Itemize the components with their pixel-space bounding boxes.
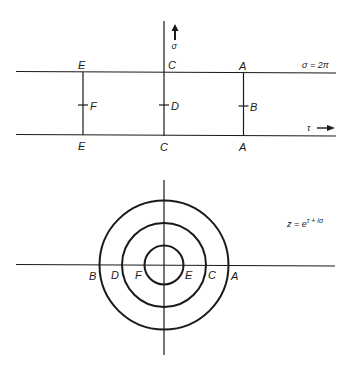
mid-label-D: D — [171, 100, 179, 112]
conformal-map-diagram: σ σ = 2π τ E C A E C A F D B — [0, 0, 352, 372]
tau-arrow-icon — [317, 125, 335, 131]
mid-label-F: F — [90, 100, 98, 112]
strip-diagram: σ σ = 2π τ E C A E C A F D B — [16, 21, 336, 153]
tau-axis — [16, 135, 336, 137]
upper-label-A: A — [238, 60, 246, 72]
lower-label-C: C — [160, 141, 168, 153]
tau-label: τ — [307, 123, 311, 133]
sigma-2pi-line — [16, 72, 336, 74]
z-plane-diagram: z = eτ + iσ B D F E C A — [16, 180, 335, 355]
circle-label-A: A — [230, 270, 238, 282]
circle-label-E: E — [185, 269, 193, 281]
sigma-arrow-icon — [172, 24, 179, 40]
circle-label-C: C — [208, 269, 216, 281]
upper-label-C: C — [168, 59, 176, 71]
sigma-2pi-label: σ = 2π — [302, 60, 330, 70]
lower-label-E: E — [78, 140, 86, 152]
upper-label-E: E — [78, 59, 86, 71]
sigma-label: σ — [172, 41, 178, 51]
lower-label-A: A — [238, 141, 246, 153]
equation-label: z = eτ + iσ — [286, 217, 324, 229]
mid-label-B: B — [250, 101, 257, 113]
circle-label-F: F — [135, 269, 143, 281]
circle-label-D: D — [111, 269, 119, 281]
circle-label-B: B — [89, 270, 96, 282]
real-axis — [16, 265, 335, 267]
